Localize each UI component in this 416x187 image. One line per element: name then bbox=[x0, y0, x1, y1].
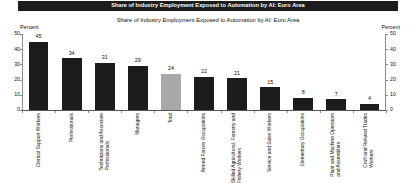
category-label-line: Elementary Occupations bbox=[300, 113, 306, 166]
y-tick-mark bbox=[386, 49, 388, 50]
y-tick-mark bbox=[386, 64, 388, 65]
category-tick bbox=[187, 111, 188, 113]
bar-value-label: 4 bbox=[368, 96, 371, 101]
y-tick-label: 40 bbox=[390, 47, 410, 52]
category-label-line: Managers bbox=[135, 113, 141, 135]
left-axis-line bbox=[22, 34, 23, 110]
y-tick-label: 30 bbox=[390, 62, 410, 67]
category-tick bbox=[386, 111, 387, 113]
bar-value-label: 45 bbox=[36, 34, 42, 39]
right-axis-line bbox=[385, 34, 386, 110]
bar-value-label: 15 bbox=[267, 80, 273, 85]
category-tick bbox=[121, 111, 122, 113]
bar bbox=[128, 66, 148, 110]
y-tick-label: 20 bbox=[0, 77, 20, 82]
category-label-line: Clerical Support Workers bbox=[36, 113, 42, 167]
category-label: Skilled Agricultural, Forestry andFisher… bbox=[231, 113, 243, 183]
y-tick-label: 10 bbox=[0, 92, 20, 97]
category-label-line: Professionals bbox=[105, 113, 111, 170]
plot-area: 0010102020303040405050 45343129242221158… bbox=[22, 34, 386, 110]
y-tick-label: 10 bbox=[390, 92, 410, 97]
y-tick-label: 40 bbox=[0, 47, 20, 52]
category-label-line: and Assemblers bbox=[336, 113, 342, 177]
bar bbox=[95, 63, 115, 110]
y-tick-mark bbox=[20, 64, 22, 65]
y-tick-label: 50 bbox=[390, 31, 410, 36]
bar bbox=[194, 77, 214, 110]
category-tick bbox=[55, 111, 56, 113]
category-label: Service and Sales Workers bbox=[267, 113, 273, 172]
category-label: Plant and Machine Operatorsand Assembler… bbox=[330, 113, 342, 177]
category-label-line: Workers bbox=[369, 113, 375, 168]
category-label: Armed Forces Occupations bbox=[201, 113, 207, 172]
chart-figure: Share of Industry Employment Exposed to … bbox=[0, 0, 416, 187]
category-tick bbox=[22, 111, 23, 113]
bar bbox=[29, 42, 49, 110]
category-label-line: Service and Sales Workers bbox=[267, 113, 273, 172]
category-label: Craft and Related TradesWorkers bbox=[363, 113, 375, 168]
category-label: Clerical Support Workers bbox=[36, 113, 42, 167]
bar bbox=[360, 104, 380, 110]
bar-value-label: 8 bbox=[302, 90, 305, 95]
category-tick bbox=[154, 111, 155, 113]
y-tick-mark bbox=[20, 80, 22, 81]
y-tick-label: 0 bbox=[0, 107, 20, 112]
y-tick-mark bbox=[386, 80, 388, 81]
y-tick-label: 50 bbox=[0, 31, 20, 36]
y-tick-label: 20 bbox=[390, 77, 410, 82]
bar-value-label: 7 bbox=[335, 92, 338, 97]
category-label: Managers bbox=[135, 113, 141, 135]
bar-value-label: 29 bbox=[135, 58, 141, 63]
chart-subtitle: Share of Industry Employment Exposed to … bbox=[0, 18, 416, 24]
y-tick-mark bbox=[20, 95, 22, 96]
bar bbox=[293, 98, 313, 110]
bar-value-label: 31 bbox=[102, 55, 108, 60]
bar-value-label: 21 bbox=[234, 71, 240, 76]
y-tick-mark bbox=[20, 34, 22, 35]
category-tick bbox=[254, 111, 255, 113]
category-tick bbox=[88, 111, 89, 113]
y-tick-label: 0 bbox=[390, 107, 410, 112]
y-tick-mark bbox=[20, 49, 22, 50]
category-label: Professionals bbox=[69, 113, 75, 142]
category-label-line: Armed Forces Occupations bbox=[201, 113, 207, 172]
category-tick bbox=[353, 111, 354, 113]
category-tick bbox=[221, 111, 222, 113]
category-label-line: Technicians and Associate bbox=[99, 113, 105, 170]
category-label: Total bbox=[168, 113, 174, 123]
x-axis-baseline bbox=[22, 110, 386, 111]
title-banner: Share of Industry Employment Exposed to … bbox=[18, 1, 398, 11]
left-axis-unit-label: Percent bbox=[20, 25, 39, 30]
y-tick-label: 30 bbox=[0, 62, 20, 67]
category-tick bbox=[320, 111, 321, 113]
category-label-line: Total bbox=[168, 113, 174, 123]
bar-value-label: 24 bbox=[168, 66, 174, 71]
bar bbox=[326, 99, 346, 110]
bar-value-label: 34 bbox=[69, 51, 75, 56]
category-label-line: Fishery Workers bbox=[237, 113, 243, 183]
y-tick-mark bbox=[386, 34, 388, 35]
category-label-line: Professionals bbox=[69, 113, 75, 142]
bar bbox=[161, 74, 181, 110]
bar bbox=[62, 58, 82, 110]
category-label: Elementary Occupations bbox=[300, 113, 306, 166]
y-tick-mark bbox=[386, 95, 388, 96]
bar-value-label: 22 bbox=[201, 69, 207, 74]
category-label: Technicians and AssociateProfessionals bbox=[99, 113, 111, 170]
bar bbox=[260, 87, 280, 110]
banner-title-text: Share of Industry Employment Exposed to … bbox=[111, 3, 305, 9]
bar bbox=[227, 78, 247, 110]
category-tick bbox=[287, 111, 288, 113]
